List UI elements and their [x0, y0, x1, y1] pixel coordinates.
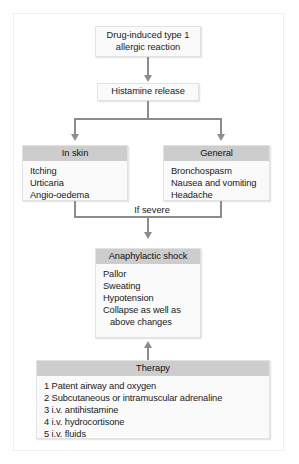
- list-item: 3 i.v. antihistamine: [44, 404, 269, 416]
- edge-branch-left-drop: [74, 118, 76, 135]
- node-general-body: Bronchospasm Nausea and vomiting Headach…: [164, 161, 269, 205]
- node-trigger-line1: Drug-induced type 1: [107, 30, 190, 42]
- list-item: above changes: [103, 316, 200, 328]
- edge-mediator-stem: [147, 101, 149, 119]
- edge-label-if-severe: If severe: [120, 205, 184, 216]
- node-therapy-header: Therapy: [37, 361, 269, 376]
- list-item: 2 Subcutaneous or intramuscular adrenali…: [44, 392, 269, 404]
- node-therapy: Therapy 1 Patent airway and oxygen 2 Sub…: [36, 360, 270, 439]
- list-item: Sweating: [103, 280, 200, 292]
- edge-merge-arrow: [144, 232, 152, 239]
- flowchart-figure: Drug-induced type 1 allergic reaction Hi…: [0, 0, 299, 464]
- node-trigger: Drug-induced type 1 allergic reaction: [95, 26, 201, 57]
- list-item: Nausea and vomiting: [171, 177, 269, 189]
- node-general-header: General: [164, 146, 269, 161]
- list-item: 5 i.v. fluids: [44, 428, 269, 440]
- edge-branch-left-arrow: [71, 134, 79, 141]
- node-anaphylactic-shock: Anaphylactic shock Pallor Sweating Hypot…: [95, 248, 201, 338]
- node-in-skin-header: In skin: [23, 146, 127, 161]
- list-item: Urticaria: [30, 177, 127, 189]
- list-item: Hypotension: [103, 292, 200, 304]
- list-item: 1 Patent airway and oxygen: [44, 380, 269, 392]
- list-item: Itching: [30, 165, 127, 177]
- list-item: Collapse as well as: [103, 304, 200, 316]
- edge-trigger-to-mediator-arrow: [144, 75, 152, 82]
- list-item: 4 i.v. hydrocortisone: [44, 416, 269, 428]
- node-mediator: Histamine release: [97, 83, 199, 101]
- node-therapy-body: 1 Patent airway and oxygen 2 Subcutaneou…: [37, 376, 269, 444]
- list-item: Bronchospasm: [171, 165, 269, 177]
- node-trigger-line2: allergic reaction: [116, 42, 180, 54]
- node-general: General Bronchospasm Nausea and vomiting…: [163, 145, 270, 201]
- edge-merge-stem: [147, 216, 149, 233]
- node-anaphylactic-shock-header: Anaphylactic shock: [96, 249, 200, 264]
- node-in-skin-body: Itching Urticaria Angio-oedema: [23, 161, 127, 205]
- edge-trigger-to-mediator-line: [147, 57, 149, 76]
- edge-branch-right-arrow: [217, 134, 225, 141]
- list-item: Angio-oedema: [30, 189, 127, 201]
- node-mediator-label: Histamine release: [111, 86, 185, 98]
- node-anaphylactic-shock-body: Pallor Sweating Hypotension Collapse as …: [96, 264, 200, 332]
- list-item: Pallor: [103, 268, 200, 280]
- node-in-skin: In skin Itching Urticaria Angio-oedema: [22, 145, 128, 201]
- edge-therapy-to-shock-line: [147, 347, 149, 361]
- edge-branch-bus: [74, 118, 222, 120]
- edge-branch-right-drop: [220, 118, 222, 135]
- list-item: Headache: [171, 189, 269, 201]
